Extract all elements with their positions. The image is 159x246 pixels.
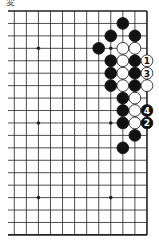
white-stone-icon xyxy=(117,42,129,54)
black-stone-icon xyxy=(105,30,117,42)
black-stone-icon xyxy=(129,30,141,42)
white-stone-icon xyxy=(129,117,141,129)
black-stone xyxy=(117,105,129,117)
black-stone-icon xyxy=(129,130,141,142)
white-stone xyxy=(129,117,141,129)
white-stone xyxy=(129,105,141,117)
black-stone-icon xyxy=(105,55,117,67)
black-stone-icon xyxy=(93,42,105,54)
black-stone xyxy=(105,55,117,67)
white-stone-icon xyxy=(117,55,129,67)
white-stone-icon xyxy=(129,42,141,54)
white-stone xyxy=(117,55,129,67)
white-stone-icon xyxy=(117,80,129,92)
white-stone-icon xyxy=(117,67,129,79)
black-stone-icon xyxy=(117,142,129,154)
star-point xyxy=(37,121,41,125)
black-stone-icon xyxy=(105,80,117,92)
white-stone xyxy=(141,80,153,92)
white-stone-icon xyxy=(141,80,153,92)
black-stone xyxy=(117,18,129,30)
black-stone-icon xyxy=(105,67,117,79)
black-stone-icon xyxy=(117,18,129,30)
black-stone xyxy=(117,117,129,129)
black-stone-move-4: 4 xyxy=(141,105,153,117)
star-point xyxy=(37,47,41,51)
black-stone xyxy=(105,30,117,42)
black-stone xyxy=(93,42,105,54)
black-stone xyxy=(117,92,129,104)
white-stone-icon xyxy=(129,92,141,104)
black-stone-icon xyxy=(129,67,141,79)
move-number-label: 1 xyxy=(144,56,150,66)
black-stone-icon xyxy=(129,80,141,92)
black-stone xyxy=(129,30,141,42)
star-point xyxy=(109,121,113,125)
white-stone xyxy=(129,92,141,104)
white-stone-move-1: 1 xyxy=(141,55,153,67)
star-point xyxy=(109,196,113,200)
black-stone xyxy=(129,55,141,67)
black-stone-icon xyxy=(117,92,129,104)
black-stone-icon xyxy=(117,117,129,129)
black-stone-icon xyxy=(129,55,141,67)
star-point xyxy=(109,47,113,51)
move-number-label: 4 xyxy=(144,106,150,116)
black-stone xyxy=(117,142,129,154)
black-stone xyxy=(105,67,117,79)
black-stone xyxy=(105,80,117,92)
black-stone xyxy=(129,80,141,92)
black-stone xyxy=(129,130,141,142)
white-stone xyxy=(117,42,129,54)
black-stone-move-2: 2 xyxy=(141,117,153,129)
white-stone-move-3: 3 xyxy=(141,67,153,79)
white-stone xyxy=(117,80,129,92)
white-stone-icon xyxy=(129,105,141,117)
black-stone xyxy=(129,67,141,79)
star-point xyxy=(37,196,41,200)
white-stone xyxy=(117,67,129,79)
white-stone xyxy=(129,42,141,54)
go-board: 1342 xyxy=(0,0,159,246)
move-number-label: 2 xyxy=(144,118,150,128)
black-stone-icon xyxy=(117,105,129,117)
move-number-label: 3 xyxy=(144,69,150,79)
